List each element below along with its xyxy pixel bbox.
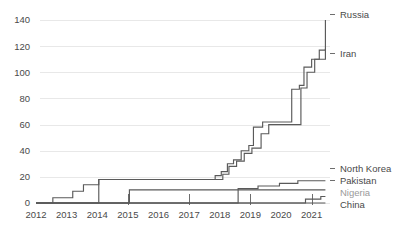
x-tick-label: 2012 xyxy=(25,209,46,220)
y-tick-label: 0 xyxy=(25,197,30,208)
series-label-pakistan: Pakistan xyxy=(340,175,376,186)
x-tick-label: 2021 xyxy=(301,209,322,220)
y-tick-label: 140 xyxy=(14,14,30,25)
series-label-nigeria: Nigeria xyxy=(340,187,371,198)
y-tick-label: 120 xyxy=(14,41,30,52)
x-tick-label: 2016 xyxy=(148,209,169,220)
series-label-china: China xyxy=(340,199,366,210)
y-tick-label: 80 xyxy=(19,93,30,104)
chart-canvas: 020406080100120140 201220132014201520162… xyxy=(0,0,419,233)
y-tick-label: 100 xyxy=(14,67,30,78)
x-tick-label: 2017 xyxy=(179,209,200,220)
x-tick-label: 2018 xyxy=(209,209,230,220)
y-tick-label: 40 xyxy=(19,145,30,156)
x-tick-label: 2020 xyxy=(270,209,291,220)
y-tick-label: 60 xyxy=(19,119,30,130)
series-label-north-korea: North Korea xyxy=(340,163,392,174)
x-tick-label: 2019 xyxy=(240,209,261,220)
step-line-chart: 020406080100120140 201220132014201520162… xyxy=(0,0,419,233)
x-tick-label: 2014 xyxy=(87,209,108,220)
x-tick-label: 2013 xyxy=(56,209,77,220)
y-tick-label: 20 xyxy=(19,171,30,182)
series-label-iran: Iran xyxy=(340,48,356,59)
series-label-russia: Russia xyxy=(340,9,370,20)
x-tick-label: 2015 xyxy=(117,209,138,220)
